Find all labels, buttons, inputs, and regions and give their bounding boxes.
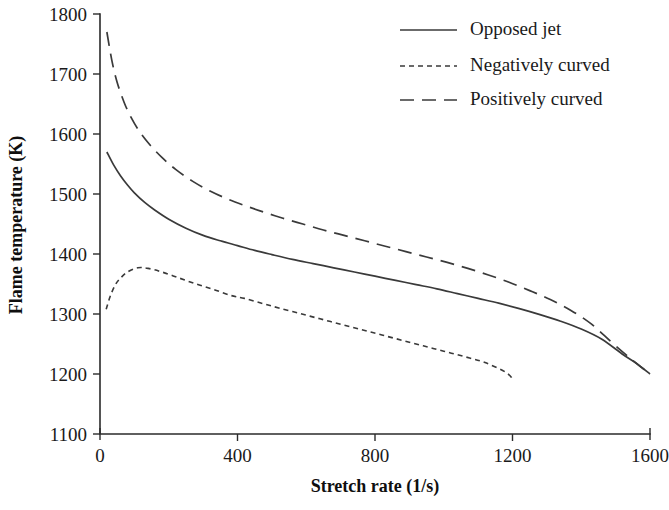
- y-axis-tick-label: 1800: [49, 4, 87, 25]
- chart-legend: Opposed jetNegatively curvedPositively c…: [400, 18, 610, 109]
- y-axis-tick-label: 1500: [49, 184, 87, 205]
- y-axis-tick-label: 1300: [49, 304, 87, 325]
- x-axis-tick-label: 800: [361, 445, 390, 466]
- series-curve-opposed-jet: [107, 152, 650, 374]
- legend-entry-label: Positively curved: [470, 88, 603, 109]
- y-axis-title: Flame temperature (K): [6, 136, 27, 315]
- legend-entry: Opposed jet: [400, 18, 562, 39]
- x-axis-tick-label: 0: [95, 445, 105, 466]
- y-axis-tick-label: 1100: [50, 424, 87, 445]
- legend-entry: Positively curved: [400, 88, 603, 109]
- y-axis-tick-label: 1700: [49, 64, 87, 85]
- legend-entry-label: Negatively curved: [470, 54, 610, 75]
- y-axis-tick-label: 1600: [49, 124, 87, 145]
- x-axis-tick-label: 1200: [494, 445, 532, 466]
- x-axis-tick-label: 1600: [631, 445, 669, 466]
- series-curve-positively-curved: [107, 32, 650, 374]
- data-series: [106, 32, 650, 379]
- chart-svg: 1100120013001400150016001700180004008001…: [0, 0, 669, 510]
- y-axis-tick-label: 1400: [49, 244, 87, 265]
- legend-entry: Negatively curved: [400, 54, 610, 75]
- legend-entry-label: Opposed jet: [470, 18, 562, 39]
- x-axis-tick-label: 400: [223, 445, 252, 466]
- flame-temperature-chart: 1100120013001400150016001700180004008001…: [0, 0, 669, 510]
- series-curve-negatively-curved: [106, 268, 512, 379]
- axis-lines: [100, 14, 650, 434]
- x-axis-title: Stretch rate (1/s): [311, 476, 440, 497]
- y-axis-tick-label: 1200: [49, 364, 87, 385]
